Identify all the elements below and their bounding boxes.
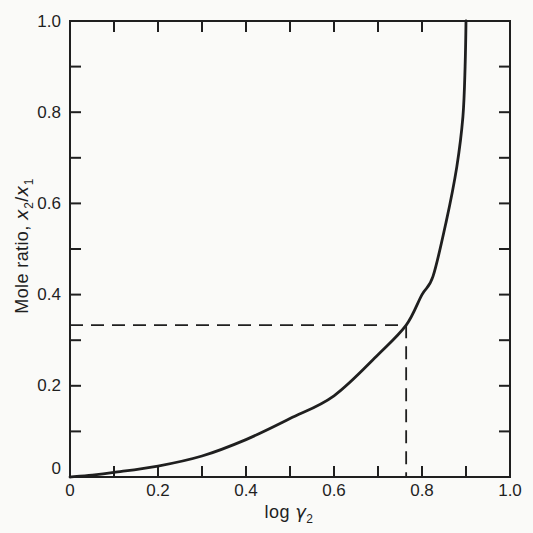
y-tick-label: 0.2 xyxy=(37,376,61,395)
x-tick-label: 0 xyxy=(65,481,74,500)
x-axis-gamma-symbol: γ xyxy=(295,501,306,522)
x-tick-label: 1.0 xyxy=(498,481,522,500)
y-tick-label: 0.4 xyxy=(37,285,61,304)
y-axis-sub-2: 2 xyxy=(22,202,36,209)
x-tick-label: 0.2 xyxy=(146,481,170,500)
y-axis-slash: / xyxy=(12,196,32,201)
y-tick-label: 0.6 xyxy=(37,194,61,213)
x-tick-label: 0.4 xyxy=(234,481,258,500)
x-axis-title-text: log xyxy=(265,502,296,522)
plot-frame xyxy=(70,21,510,477)
y-tick-label: 1.0 xyxy=(37,12,61,31)
x-axis-title: log γ2 xyxy=(265,501,314,523)
y-axis-title-text: Mole ratio, xyxy=(12,220,32,314)
y-axis-sub-1: 1 xyxy=(22,178,36,185)
chart-figure: 00.20.40.60.81.000.20.40.60.81.0 Mole ra… xyxy=(0,0,533,533)
y-axis-title: Mole ratio, x2/x1 xyxy=(11,178,33,314)
y-axis-var-x1: x xyxy=(11,185,32,196)
y-tick-label: 0.8 xyxy=(37,103,61,122)
curve-mole-ratio xyxy=(70,21,466,477)
x-tick-label: 0.6 xyxy=(322,481,346,500)
plot-svg: 00.20.40.60.81.000.20.40.60.81.0 xyxy=(0,0,533,533)
x-axis-sub-2: 2 xyxy=(306,512,313,526)
y-tick-label: 0 xyxy=(52,459,61,478)
x-tick-label: 0.8 xyxy=(410,481,434,500)
y-axis-var-x2: x xyxy=(11,209,32,220)
